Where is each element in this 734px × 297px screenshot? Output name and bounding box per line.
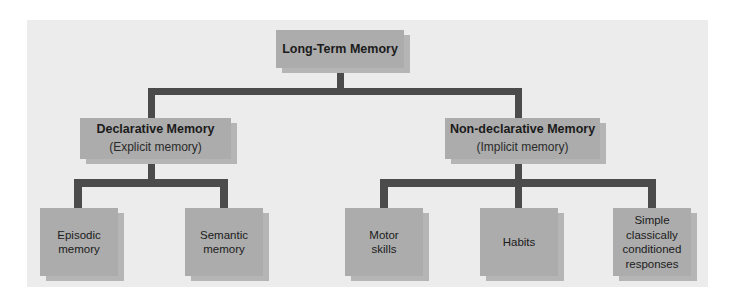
node-title: Long-Term Memory: [282, 42, 398, 57]
connector-semantic: [220, 179, 228, 208]
node-subtitle: (Implicit memory): [477, 140, 569, 155]
connector-habits: [515, 179, 522, 208]
connector-declarative-up: [148, 88, 155, 118]
node-nondeclarative-memory: Non-declarative Memory (Implicit memory): [445, 118, 600, 159]
node-subtitle: (Explicit memory): [109, 140, 202, 155]
node-label: Habits: [503, 235, 536, 250]
node-motor-skills: Motor skills: [345, 208, 423, 276]
node-label: Episodic memory: [57, 228, 100, 257]
node-semantic-memory: Semantic memory: [185, 208, 263, 276]
node-label: Motor skills: [369, 228, 398, 257]
node-episodic-memory: Episodic memory: [40, 208, 118, 276]
node-habits: Habits: [480, 208, 558, 276]
connector-motor: [380, 179, 388, 208]
node-declarative-memory: Declarative Memory (Explicit memory): [80, 118, 231, 159]
connector-episodic: [74, 179, 82, 208]
connector-top-bar: [148, 88, 522, 95]
node-label: Semantic memory: [200, 228, 248, 257]
node-title: Non-declarative Memory: [450, 122, 595, 137]
node-title: Declarative Memory: [96, 122, 214, 137]
node-label: Simple classically conditioned responses: [623, 213, 682, 271]
node-long-term-memory: Long-Term Memory: [276, 30, 404, 68]
connector-declarative-bar: [74, 179, 228, 187]
connector-simple: [648, 179, 656, 208]
node-classical-conditioning: Simple classically conditioned responses: [613, 208, 691, 276]
connector-nondeclarative-up: [515, 88, 522, 118]
